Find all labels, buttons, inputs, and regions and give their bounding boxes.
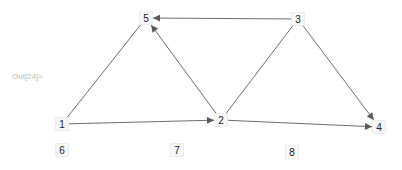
edge-1-2 [69,120,214,124]
graph-node-1: 1 [55,117,69,131]
edge-3-5 [153,18,291,19]
graph-node-5: 5 [139,11,153,25]
edge-2-3 [226,26,292,113]
graph-node-8: 8 [285,145,299,159]
graph-node-4: 4 [372,120,386,134]
edge-3-4 [303,26,374,120]
edge-2-5 [151,25,216,113]
graph-node-6: 6 [55,143,69,157]
edge-1-5 [68,25,141,117]
graph-node-7: 7 [170,143,184,157]
edge-2-4 [228,120,372,126]
graph-node-3: 3 [291,12,305,26]
graph-node-2: 2 [214,113,228,127]
